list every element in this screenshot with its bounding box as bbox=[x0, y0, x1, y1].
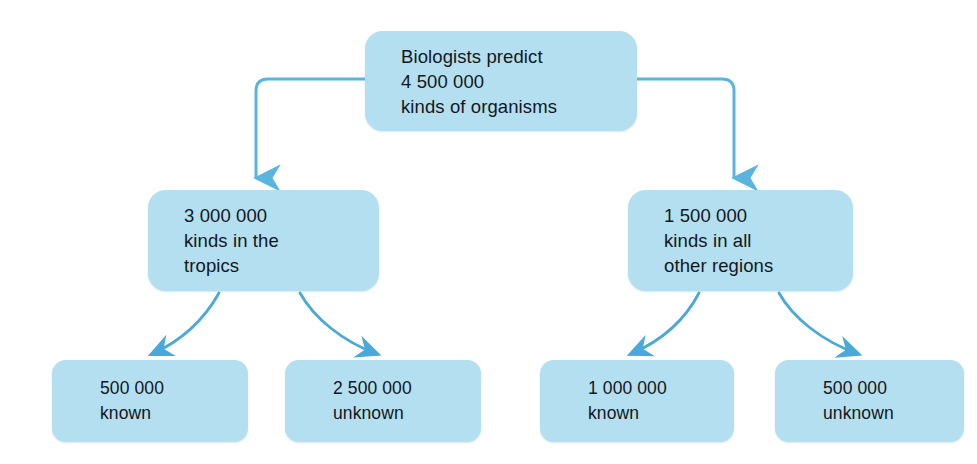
node-root-line-2: 4 500 000 bbox=[401, 69, 637, 94]
node-other-regions: 1 500 000 kinds in all other regions bbox=[628, 190, 853, 291]
node-tropics-known: 500 000 known bbox=[52, 360, 248, 442]
edge-tropics-to-tropics-unknown bbox=[300, 293, 377, 354]
node-tropics: 3 000 000 kinds in the tropics bbox=[148, 190, 379, 291]
node-other-unknown-line-2: unknown bbox=[823, 401, 964, 426]
node-tropics-unknown-line-1: 2 500 000 bbox=[333, 376, 481, 401]
edge-root-to-other-regions bbox=[637, 79, 734, 178]
edge-root-to-tropics bbox=[256, 79, 365, 178]
node-other-regions-line-1: 1 500 000 bbox=[664, 203, 853, 228]
node-root-line-1: Biologists predict bbox=[401, 44, 637, 69]
edge-other-regions-to-other-unknown bbox=[779, 293, 858, 354]
node-other-known-line-1: 1 000 000 bbox=[588, 376, 734, 401]
node-other-known-line-2: known bbox=[588, 401, 734, 426]
node-tropics-unknown-line-2: unknown bbox=[333, 401, 481, 426]
node-tropics-line-2: kinds in the bbox=[184, 228, 379, 253]
node-root: Biologists predict 4 500 000 kinds of or… bbox=[365, 31, 637, 131]
edge-other-regions-to-other-known bbox=[631, 293, 699, 354]
node-root-line-3: kinds of organisms bbox=[401, 94, 637, 119]
node-other-regions-line-2: kinds in all bbox=[664, 228, 853, 253]
node-other-known: 1 000 000 known bbox=[540, 360, 734, 442]
node-tropics-line-1: 3 000 000 bbox=[184, 203, 379, 228]
flow-diagram: Biologists predict 4 500 000 kinds of or… bbox=[0, 0, 977, 464]
node-tropics-known-line-1: 500 000 bbox=[100, 376, 248, 401]
node-tropics-unknown: 2 500 000 unknown bbox=[285, 360, 481, 442]
node-other-unknown-line-1: 500 000 bbox=[823, 376, 964, 401]
node-tropics-known-line-2: known bbox=[100, 401, 248, 426]
node-other-unknown: 500 000 unknown bbox=[775, 360, 964, 442]
edge-tropics-to-tropics-known bbox=[152, 293, 219, 354]
node-tropics-line-3: tropics bbox=[184, 253, 379, 278]
node-other-regions-line-3: other regions bbox=[664, 253, 853, 278]
